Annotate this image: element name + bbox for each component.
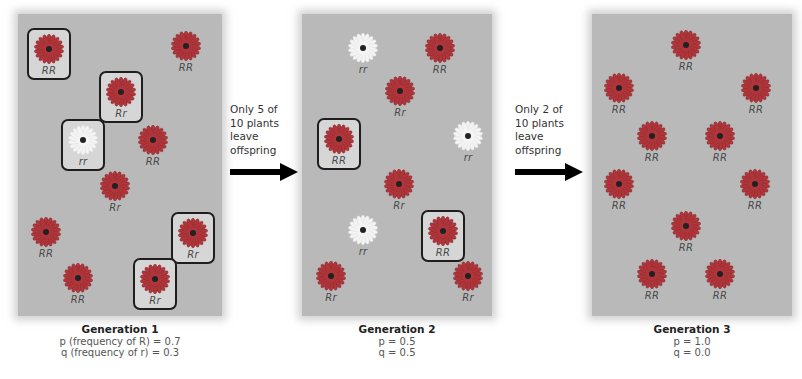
plant-RR: RR bbox=[131, 122, 175, 174]
transition-2: Only 2 of 10 plants leave offspring bbox=[515, 103, 595, 181]
plant-RR-selected: RR bbox=[27, 28, 71, 80]
plant-Rr-selected: Rr bbox=[99, 71, 143, 123]
genotype-label: RR bbox=[698, 290, 742, 302]
red-flower-icon bbox=[671, 211, 701, 241]
genotype-label: RR bbox=[664, 61, 708, 73]
white-flower-icon bbox=[68, 125, 98, 155]
generation-3-title: Generation 3 bbox=[617, 324, 767, 336]
plant-RR-selected: RR bbox=[421, 210, 465, 262]
genotype-label: RR bbox=[319, 155, 359, 167]
plant-Rr-selected: Rr bbox=[133, 258, 177, 310]
generation-3-q: q = 0.0 bbox=[617, 347, 767, 359]
plant-RR: RR bbox=[733, 166, 777, 218]
plant-RR: RR bbox=[664, 208, 708, 260]
red-flower-icon bbox=[138, 125, 168, 155]
red-flower-icon bbox=[671, 30, 701, 60]
transition-1: Only 5 of 10 plants leave offspring bbox=[230, 103, 310, 181]
generation-2-p: p = 0.5 bbox=[322, 336, 472, 348]
red-flower-icon bbox=[428, 216, 458, 246]
red-flower-icon bbox=[705, 121, 735, 151]
red-flower-icon bbox=[34, 34, 64, 64]
plant-Rr: Rr bbox=[378, 73, 422, 125]
red-flower-icon bbox=[453, 261, 483, 291]
white-flower-icon bbox=[348, 33, 378, 63]
genotype-label: Rr bbox=[173, 249, 213, 261]
plant-RR: RR bbox=[597, 70, 641, 122]
red-flower-icon bbox=[171, 31, 201, 61]
plant-RR: RR bbox=[56, 260, 100, 312]
genotype-label: RR bbox=[24, 248, 68, 260]
white-flower-icon bbox=[453, 121, 483, 151]
genotype-label: RR bbox=[131, 156, 175, 168]
plant-RR: RR bbox=[698, 256, 742, 308]
genotype-label: RR bbox=[630, 290, 674, 302]
genotype-label: Rr bbox=[135, 295, 175, 307]
red-flower-icon bbox=[604, 73, 634, 103]
genotype-label: RR bbox=[597, 104, 641, 116]
red-flower-icon bbox=[100, 171, 130, 201]
genotype-label: rr bbox=[341, 246, 385, 258]
generation-2-title: Generation 2 bbox=[322, 324, 472, 336]
genotype-label: RR bbox=[164, 62, 208, 74]
genotype-label: Rr bbox=[309, 292, 353, 304]
plant-Rr: Rr bbox=[93, 168, 137, 220]
genotype-label: Rr bbox=[446, 292, 490, 304]
generation-2-q: q = 0.5 bbox=[322, 347, 472, 359]
red-flower-icon bbox=[324, 124, 354, 154]
genotype-label: RR bbox=[630, 152, 674, 164]
genotype-label: Rr bbox=[101, 108, 141, 120]
plant-rr: rr bbox=[341, 212, 385, 264]
generation-1-title: Generation 1 bbox=[20, 324, 220, 336]
red-flower-icon bbox=[385, 76, 415, 106]
right-arrow-icon bbox=[230, 163, 298, 181]
red-flower-icon bbox=[741, 73, 771, 103]
right-arrow-icon bbox=[515, 163, 583, 181]
genotype-label: RR bbox=[29, 65, 69, 77]
plant-rr-selected: rr bbox=[61, 119, 105, 171]
genotype-label: Rr bbox=[93, 202, 137, 214]
genotype-label: RR bbox=[698, 152, 742, 164]
plant-rr: rr bbox=[446, 118, 490, 170]
red-flower-icon bbox=[140, 264, 170, 294]
plant-RR: RR bbox=[630, 256, 674, 308]
red-flower-icon bbox=[637, 121, 667, 151]
plant-RR: RR bbox=[734, 70, 778, 122]
generation-3-caption: Generation 3 p = 1.0 q = 0.0 bbox=[617, 324, 767, 359]
red-flower-icon bbox=[31, 217, 61, 247]
red-flower-icon bbox=[63, 263, 93, 293]
plant-Rr: Rr bbox=[377, 166, 421, 218]
plant-Rr: Rr bbox=[309, 258, 353, 310]
red-flower-icon bbox=[384, 169, 414, 199]
genotype-label: rr bbox=[63, 156, 103, 168]
red-flower-icon bbox=[178, 218, 208, 248]
genotype-label: RR bbox=[733, 200, 777, 212]
genotype-label: RR bbox=[664, 242, 708, 254]
red-flower-icon bbox=[316, 261, 346, 291]
red-flower-icon bbox=[705, 259, 735, 289]
genotype-label: RR bbox=[597, 200, 641, 212]
plant-RR: RR bbox=[698, 118, 742, 170]
plant-RR: RR bbox=[24, 214, 68, 266]
generation-3-p: p = 1.0 bbox=[617, 336, 767, 348]
plant-RR: RR bbox=[418, 30, 462, 82]
red-flower-icon bbox=[637, 259, 667, 289]
genotype-label: RR bbox=[56, 294, 100, 306]
red-flower-icon bbox=[106, 77, 136, 107]
red-flower-icon bbox=[740, 169, 770, 199]
transition-1-text: Only 5 of 10 plants leave offspring bbox=[230, 103, 310, 157]
genotype-label: RR bbox=[418, 64, 462, 76]
white-flower-icon bbox=[348, 215, 378, 245]
transition-2-text: Only 2 of 10 plants leave offspring bbox=[515, 103, 595, 157]
generation-2-caption: Generation 2 p = 0.5 q = 0.5 bbox=[322, 324, 472, 359]
generation-1-p: p (frequency of R) = 0.7 bbox=[20, 336, 220, 348]
genotype-label: rr bbox=[446, 152, 490, 164]
plant-Rr-selected: Rr bbox=[171, 212, 215, 264]
generation-1-caption: Generation 1 p (frequency of R) = 0.7 q … bbox=[20, 324, 220, 359]
generation-1-q: q (frequency of r) = 0.3 bbox=[20, 347, 220, 359]
plant-RR: RR bbox=[164, 28, 208, 80]
plant-RR: RR bbox=[597, 166, 641, 218]
plant-Rr: Rr bbox=[446, 258, 490, 310]
plant-RR-selected: RR bbox=[317, 118, 361, 170]
genotype-label: Rr bbox=[378, 107, 422, 119]
plant-RR: RR bbox=[664, 27, 708, 79]
